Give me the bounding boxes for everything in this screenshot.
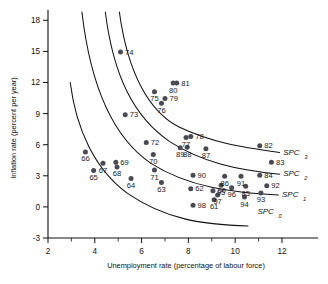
point-label-83: 83 (276, 158, 284, 167)
y-tick-label: 6 (35, 141, 40, 150)
point-label-85: 85 (241, 189, 249, 198)
point-label-73: 73 (130, 110, 138, 119)
data-point (269, 160, 274, 165)
axes: -3036912151824681012 (31, 10, 318, 256)
point-label-97: 97 (213, 197, 221, 206)
point-label-68: 68 (113, 169, 121, 178)
data-point (188, 134, 193, 139)
point-label-62: 62 (195, 184, 203, 193)
data-point (191, 173, 196, 178)
x-axis-title: Unemployment rate (percentage of labour … (107, 261, 265, 270)
point-label-75: 75 (150, 94, 158, 103)
data-point (191, 203, 196, 208)
y-axis-title: Inflation rate (percent per year) (9, 77, 18, 178)
point-label-80: 80 (169, 86, 177, 95)
data-point (264, 183, 269, 188)
point-label-98: 98 (198, 201, 206, 210)
data-point (188, 186, 193, 191)
point-label-89: 89 (176, 150, 184, 159)
curve-label-spc1: SPC (282, 190, 299, 199)
curve-label-spc0: SPC (257, 207, 274, 216)
point-label-95: 95 (217, 188, 225, 197)
y-tick-label: 15 (31, 47, 41, 56)
y-tick-label: 18 (31, 16, 41, 25)
point-label-74: 74 (125, 48, 133, 57)
point-label-78: 78 (195, 132, 203, 141)
axis-lines (48, 10, 318, 238)
curve-sublabel-1: 1 (303, 196, 306, 202)
point-label-63: 63 (157, 185, 165, 194)
y-tick-label: 12 (31, 78, 41, 87)
point-label-70: 70 (149, 157, 157, 166)
point-label-86: 86 (220, 179, 228, 188)
point-label-81: 81 (181, 79, 189, 88)
x-tick-label: 6 (139, 247, 144, 256)
point-label-94: 94 (240, 200, 248, 209)
spc-curve-2 (105, 12, 279, 174)
point-label-66: 66 (81, 154, 89, 163)
x-tick-label: 10 (231, 247, 241, 256)
point-label-79: 79 (169, 94, 177, 103)
data-point (210, 188, 215, 193)
point-label-69: 69 (120, 158, 128, 167)
data-point (257, 173, 262, 178)
point-label-84: 84 (264, 171, 272, 180)
data-point (257, 143, 262, 148)
data-point (118, 49, 123, 54)
point-label-65: 65 (89, 173, 97, 182)
point-label-96: 96 (227, 190, 235, 199)
point-label-90: 90 (198, 171, 206, 180)
point-label-91: 91 (237, 179, 245, 188)
point-label-92: 92 (271, 181, 279, 190)
point-label-93: 93 (257, 195, 265, 204)
point-label-76: 76 (157, 106, 165, 115)
point-label-67: 67 (99, 166, 107, 175)
phillips-curve-chart: -3036912151824681012 6061626364656667686… (0, 0, 328, 284)
y-tick-label: 0 (35, 203, 40, 212)
data-points (83, 49, 274, 207)
data-point (123, 112, 128, 117)
data-point (144, 140, 149, 145)
y-tick-label: 9 (35, 110, 40, 119)
x-tick-label: 4 (93, 247, 98, 256)
y-tick-label: -3 (33, 234, 41, 243)
data-point (162, 96, 167, 101)
curve-sublabel-0: 0 (278, 213, 282, 219)
curve-sublabel-3: 3 (304, 154, 308, 160)
y-tick-label: 3 (35, 172, 40, 181)
point-label-77: 77 (182, 140, 190, 149)
chart-canvas: -3036912151824681012 6061626364656667686… (0, 0, 328, 284)
curve-sublabel-2: 2 (303, 175, 308, 181)
data-point (113, 160, 118, 165)
x-tick-label: 8 (186, 247, 191, 256)
spc-curve-1 (82, 12, 279, 195)
x-tick-label: 2 (46, 247, 51, 256)
x-tick-label: 12 (277, 247, 287, 256)
point-label-71: 71 (150, 173, 158, 182)
point-label-82: 82 (264, 141, 272, 150)
point-label-64: 64 (127, 181, 135, 190)
point-label-72: 72 (151, 138, 159, 147)
point-label-87: 87 (202, 151, 210, 160)
curve-label-spc2: SPC (283, 169, 300, 178)
curve-label-spc3: SPC (283, 148, 300, 157)
